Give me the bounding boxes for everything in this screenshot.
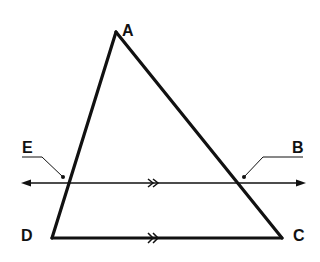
leader-e bbox=[22, 157, 63, 177]
diagram-canvas: A E B D C bbox=[0, 0, 320, 262]
side-ac bbox=[116, 32, 282, 238]
point-label-b: B bbox=[292, 140, 304, 156]
triangle-diagram bbox=[0, 0, 320, 262]
arrowhead-right-icon bbox=[296, 180, 306, 187]
point-label-e: E bbox=[22, 140, 33, 156]
vertex-label-d: D bbox=[21, 228, 33, 244]
point-e-dot bbox=[61, 175, 65, 179]
vertex-label-c: C bbox=[293, 228, 305, 244]
side-ad bbox=[52, 32, 116, 238]
vertex-label-a: A bbox=[122, 23, 134, 39]
arrowhead-left-icon bbox=[21, 180, 31, 187]
point-b-dot bbox=[242, 175, 246, 179]
leader-b bbox=[244, 157, 303, 177]
